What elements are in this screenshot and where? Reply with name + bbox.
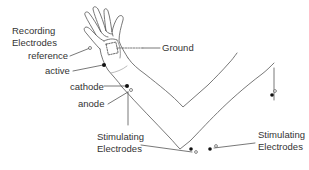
stimulating-electrodes-wrist-line2: Electrodes [97,143,142,154]
axilla-cathode [270,93,274,97]
cathode-electrode [125,84,129,88]
reference-label: reference [28,50,68,61]
active-label: active [45,65,70,76]
reference-electrode [89,47,92,50]
recording-electrodes-title-line2: Electrodes [12,37,57,48]
ground-label: Ground [162,42,194,53]
recording-electrodes-title-line1: Recording [12,25,55,36]
elbow-anode-right [215,145,218,148]
stimulating-electrodes-right-line1: Stimulating [258,129,305,140]
stimulating-electrodes-wrist-line1: Stimulating [97,131,144,142]
active-electrode [102,63,106,67]
anode-electrode [130,89,133,92]
stimulating-electrodes-right-line2: Electrodes [258,141,303,152]
elbow-anode-left [195,151,198,154]
anode-label: anode [78,98,104,109]
hand-outline [84,7,128,58]
axilla-anode [274,90,277,93]
elbow-cathode-right [208,147,212,151]
elbow-cathode-left [189,147,193,151]
cathode-label: cathode [70,81,104,92]
